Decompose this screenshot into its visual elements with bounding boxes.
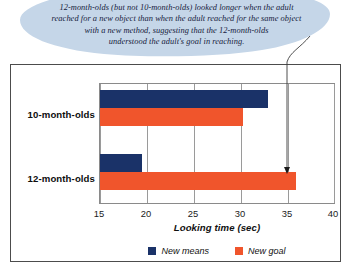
xtick-15: 15 [94, 208, 104, 219]
caption-line-1: 12-month-olds (but not 10-month-olds) lo… [14, 2, 339, 13]
legend-item-new-goal: New goal [235, 246, 286, 256]
legend-label-new-means: New means [161, 246, 209, 256]
figure-root: 12-month-olds (but not 10-month-olds) lo… [0, 0, 353, 272]
caption-line-2: reached for a new object than when the a… [14, 13, 339, 24]
xtick-20: 20 [141, 208, 151, 219]
bar-10mo-new-goal [100, 108, 243, 126]
xtick-35: 35 [282, 208, 292, 219]
gridline-40 [334, 84, 335, 203]
caption-text: 12-month-olds (but not 10-month-olds) lo… [14, 2, 339, 48]
xtick-30: 30 [235, 208, 245, 219]
caption-line-4: understood the adult's goal in reaching. [14, 36, 339, 47]
plot-area [99, 83, 335, 204]
legend-label-new-goal: New goal [248, 246, 286, 256]
chart-legend: New means New goal [99, 246, 335, 256]
legend-swatch-icon-new-means [148, 247, 156, 255]
legend-item-new-means: New means [148, 246, 209, 256]
category-label-10-month-olds: 10-month-olds [28, 109, 95, 120]
caption-line-3: with a new method, suggesting that the 1… [14, 25, 339, 36]
xtick-25: 25 [188, 208, 198, 219]
x-axis-title: Looking time (sec) [99, 222, 335, 233]
bar-10mo-new-means [100, 90, 268, 108]
bar-12mo-new-means [100, 154, 142, 172]
caption-callout: 12-month-olds (but not 10-month-olds) lo… [0, 0, 353, 66]
bar-12mo-new-goal [100, 172, 296, 190]
legend-swatch-icon-new-goal [235, 247, 243, 255]
category-label-12-month-olds: 12-month-olds [28, 173, 95, 184]
xtick-40: 40 [328, 208, 338, 219]
